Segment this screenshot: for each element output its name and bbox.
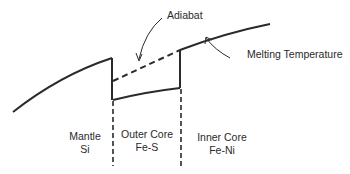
adiabat-pointer-arrow	[139, 18, 162, 59]
melting-temperature-pointer-arrow	[206, 38, 230, 58]
region-inner-core-name: Inner Core	[197, 131, 247, 143]
region-outer-core-name: Outer Core	[121, 128, 173, 140]
melting-temperature-curve	[180, 24, 270, 50]
region-outer-core-composition: Fe-S	[136, 141, 159, 153]
mantle-temperature-curve	[13, 58, 112, 112]
adiabat-dashed-line	[113, 50, 180, 81]
earth-interior-temperature-diagram: Adiabat Melting Temperature Mantle Si Ou…	[0, 0, 350, 174]
region-mantle-composition: Si	[80, 143, 89, 155]
region-inner-core-composition: Fe-Ni	[209, 144, 235, 156]
melting-temperature-label: Melting Temperature	[247, 48, 343, 60]
region-mantle-name: Mantle	[69, 130, 101, 142]
adiabat-label: Adiabat	[167, 9, 203, 21]
outer-core-temperature-curve	[113, 88, 180, 100]
